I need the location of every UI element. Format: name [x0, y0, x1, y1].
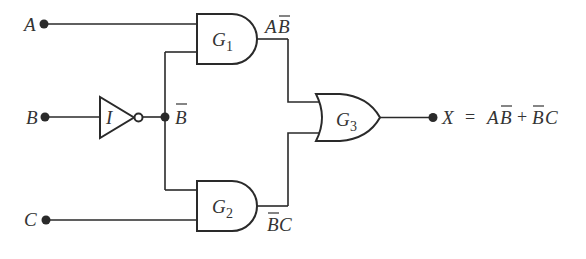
input-a-label: A — [22, 14, 36, 35]
output-plus: + — [517, 107, 527, 127]
output-expression: X = A B + B C — [441, 106, 558, 128]
gate-g2-and: G 2 B C — [197, 181, 292, 235]
output-equals: = — [465, 107, 475, 127]
gate-g3-or: G 3 — [316, 94, 438, 141]
g3-label: G — [336, 109, 350, 130]
input-c: C — [24, 209, 197, 230]
output-x-terminal — [429, 113, 438, 122]
gate-g1-and: G 1 A B — [197, 14, 290, 64]
g1-subscript: 1 — [226, 39, 233, 54]
g3-subscript: 3 — [350, 119, 357, 134]
b-bar-label: B — [175, 107, 187, 128]
output-term2-b: B — [532, 107, 544, 128]
output-term1-b: B — [500, 107, 512, 128]
logic-circuit-diagram: A B C I B G 1 A B G 2 — [0, 0, 586, 259]
output-x-label: X — [441, 107, 455, 128]
output-term2-c: C — [545, 107, 558, 128]
wire-g1-to-g3 — [288, 39, 320, 102]
input-a: A — [22, 14, 197, 35]
inverter-bubble-icon — [135, 114, 143, 122]
output-term1-a: A — [485, 107, 499, 128]
g2-out-label-c: C — [279, 214, 292, 235]
g2-out-label-b: B — [267, 214, 279, 235]
g2-subscript: 2 — [226, 206, 233, 221]
input-c-label: C — [24, 209, 37, 230]
g1-out-label-b: B — [278, 16, 290, 37]
inverter-i: I B — [100, 97, 187, 138]
g1-out-label-a: A — [263, 16, 277, 37]
g2-label: G — [212, 196, 226, 217]
input-b: B — [26, 107, 99, 128]
input-b-label: B — [26, 107, 38, 128]
wire-g2-to-g3 — [288, 133, 320, 206]
g1-label: G — [212, 29, 226, 50]
